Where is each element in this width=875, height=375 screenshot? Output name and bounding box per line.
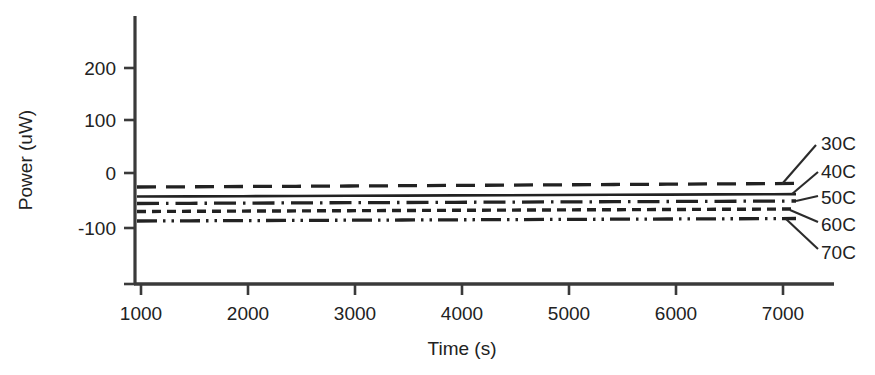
x-tick-label-4000: 4000 [441, 303, 483, 324]
series-labels: 30C 40C 50C 60C 70C [821, 133, 856, 263]
series-label-50c: 50C [821, 187, 856, 208]
x-axis-title: Time (s) [428, 338, 497, 359]
series-label-30c: 30C [821, 133, 856, 154]
y-tick-label-200: 200 [84, 58, 116, 79]
series-line-70c [137, 219, 796, 222]
x-tick-label-6000: 6000 [655, 303, 697, 324]
line-chart: 200 100 0 -100 1000 2000 3000 4000 5000 … [0, 0, 875, 375]
leader-line-70c [786, 219, 818, 249]
leader-line-50c [796, 196, 818, 201]
y-tick-label-100: 100 [84, 110, 116, 131]
series-label-60c: 60C [821, 214, 856, 235]
leader-line-40c [792, 172, 818, 194]
leader-line-60c [790, 210, 818, 222]
axis-group [124, 16, 834, 295]
leader-line-group [782, 145, 818, 249]
y-tick-label-minus100: -100 [78, 218, 116, 239]
series-label-40c: 40C [821, 161, 856, 182]
series-line-30c [137, 183, 796, 187]
y-tick-label-0: 0 [105, 163, 116, 184]
series-label-70c: 70C [821, 242, 856, 263]
x-tick-label-3000: 3000 [334, 303, 376, 324]
x-tick-label-1000: 1000 [120, 303, 162, 324]
series-line-40c [137, 194, 796, 196]
series-line-60c [137, 209, 796, 212]
y-tick-labels: 200 100 0 -100 [78, 58, 116, 239]
x-tick-label-7000: 7000 [762, 303, 804, 324]
x-tick-label-5000: 5000 [548, 303, 590, 324]
chart-figure: 200 100 0 -100 1000 2000 3000 4000 5000 … [0, 0, 875, 375]
series-group [137, 183, 796, 221]
x-tick-label-2000: 2000 [227, 303, 269, 324]
x-tick-labels: 1000 2000 3000 4000 5000 6000 7000 [120, 303, 804, 324]
series-line-50c [137, 201, 796, 204]
y-axis-title: Power (uW) [15, 110, 36, 210]
